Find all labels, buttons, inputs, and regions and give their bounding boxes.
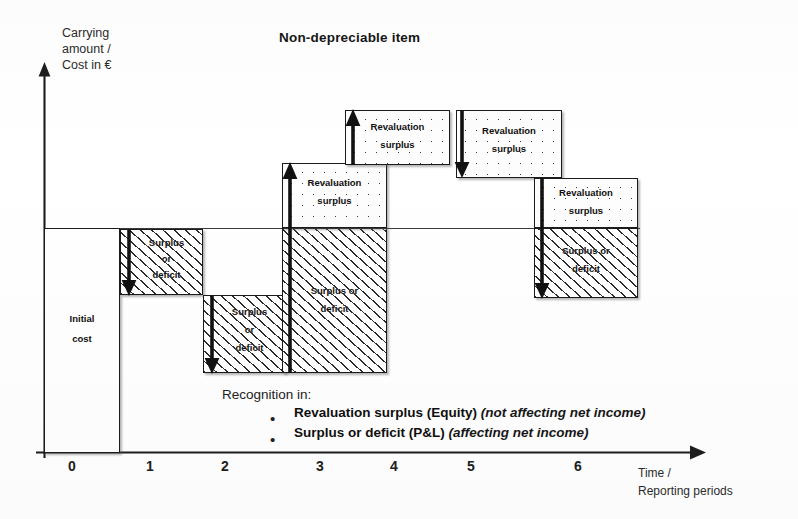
bar-period2-label-3: deficit xyxy=(214,342,285,355)
bar-initial-cost-label-2: cost xyxy=(45,333,119,346)
bar-period1-label-2: or xyxy=(131,253,202,266)
y-axis-caption-line3: Cost in € xyxy=(62,57,111,73)
recognition-item-1-italic: (not affecting net income) xyxy=(481,405,646,420)
chart-title: Non-depreciable item xyxy=(279,30,420,46)
x-tick-2: 2 xyxy=(212,458,238,475)
y-axis-caption-line1: Carrying xyxy=(62,25,109,41)
y-axis-caption-line2: amount / xyxy=(62,41,111,57)
x-tick-4: 4 xyxy=(381,458,407,475)
x-tick-0: 0 xyxy=(59,458,85,475)
bar-period5-revaluation-surplus: Revaluation surplus xyxy=(456,110,562,178)
recognition-item-2-bold: Surplus or deficit (P&L) xyxy=(294,425,445,440)
recognition-heading: Recognition in: xyxy=(222,387,311,403)
recognition-bullet-1: • xyxy=(270,411,275,426)
bar-period5-reval-label-1: Revaluation xyxy=(457,125,561,138)
recognition-item-2-italic: (affecting net income) xyxy=(449,425,589,440)
arrow-period4-up xyxy=(344,107,362,167)
bar-period2-label-1: Surplus xyxy=(214,306,285,319)
bar-initial-cost: Initial cost xyxy=(44,228,120,453)
arrow-period3-up xyxy=(281,160,299,375)
recognition-item-2: Surplus or deficit (P&L) (affecting net … xyxy=(294,425,589,440)
bar-period2-label-2: or xyxy=(214,324,285,337)
bar-period1-label-3: deficit xyxy=(131,269,202,282)
x-axis-caption-line1: Time / xyxy=(638,466,671,482)
recognition-item-1: Revaluation surplus (Equity) (not affect… xyxy=(294,405,646,420)
diagram-canvas: Non-depreciable item Carrying amount / C… xyxy=(0,0,798,519)
arrow-period2-down xyxy=(203,294,221,376)
x-axis-arrow xyxy=(30,442,710,464)
recognition-bullet-2: • xyxy=(270,432,275,447)
x-axis-caption-line2: Reporting periods xyxy=(638,484,733,500)
recognition-item-1-bold: Revaluation surplus (Equity) xyxy=(294,405,477,420)
bar-period5-reval-label-2: surplus xyxy=(457,143,561,156)
x-tick-1: 1 xyxy=(137,458,163,475)
x-tick-5: 5 xyxy=(458,458,484,475)
bar-initial-cost-label-1: Initial xyxy=(45,313,119,326)
arrow-period5-down xyxy=(453,108,471,180)
bar-period1-label-1: Surplus xyxy=(131,237,202,250)
x-tick-3: 3 xyxy=(307,458,333,475)
x-tick-6: 6 xyxy=(565,458,591,475)
arrow-period1-down xyxy=(120,228,138,298)
arrow-period6-down xyxy=(533,176,551,301)
